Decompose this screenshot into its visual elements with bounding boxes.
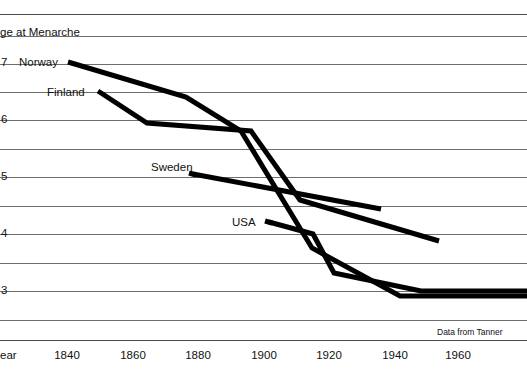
- series-line-finland: [98, 91, 439, 241]
- series-layer: [0, 0, 527, 383]
- leader-line-usa: [265, 221, 272, 223]
- leader-line-sweden: [189, 173, 196, 175]
- series-line-usa: [269, 222, 527, 291]
- series-line-norway: [68, 62, 527, 296]
- chart-container: ge at Menarche 7 6 5 4 3 ear 1840 1860 1…: [0, 0, 527, 383]
